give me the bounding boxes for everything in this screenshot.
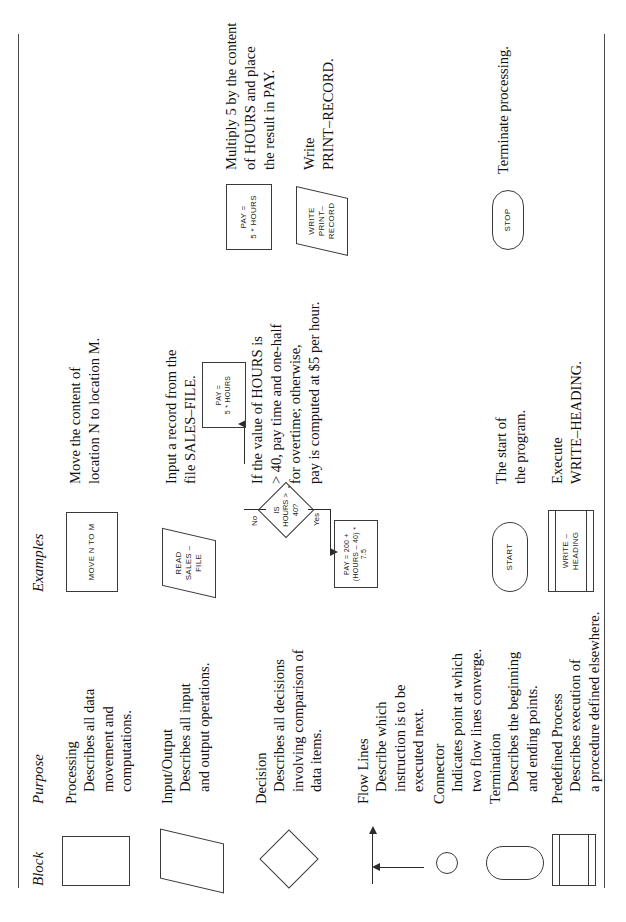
example-label-pay: PAY = 5 * HOURS [227, 185, 271, 249]
term-flow-lines: Flow Lines [354, 599, 372, 804]
example-termination-stop: STOP [492, 190, 524, 250]
term-processing: Processing [62, 599, 80, 804]
purpose-connector: Connector Indicates point at which two f… [430, 599, 485, 804]
caption-predefined-process: Execute WRITE–HEADING. [548, 274, 586, 484]
decision-yes-box-label: PAY = 200 + (HOURS – 40) * 7.5 [335, 521, 377, 587]
example-label-write-heading: WRITE – HEADING [549, 511, 593, 591]
shape-flow-lines [364, 826, 420, 886]
decision-diamond-label: IS HOURS > 40? [270, 480, 302, 540]
example-io: READ SALES – FILE [162, 534, 216, 592]
decision-no-box-label: PAY = 5 * HOURS [203, 363, 245, 427]
rotated-page-wrapper: Block Purpose Examples Processing Descri… [0, 0, 626, 922]
desc-flow-lines: Describe which instruction is to be exec… [372, 599, 427, 804]
purpose-predefined-process: Predefined Process Describes execution o… [548, 574, 603, 804]
caption-io: Input a record from the file SALES–FILE. [162, 274, 200, 484]
bottom-rule [604, 34, 605, 888]
shape-io-parallelogram [160, 836, 224, 886]
purpose-termination: Termination Describes the beginning and … [486, 599, 541, 804]
desc-termination: Describes the beginning and ending point… [504, 599, 541, 804]
caption-write-print-record: Write PRINT–RECORD. [300, 0, 338, 170]
example-label-read: READ SALES – FILE [163, 535, 215, 591]
caption-termination-stop: Terminate processing. [494, 4, 513, 174]
example-label-move: MOVE N TO M [67, 513, 117, 591]
term-termination: Termination [486, 599, 504, 804]
top-rule [18, 34, 19, 888]
example-predefined-process: WRITE – HEADING [548, 510, 594, 592]
shape-predefined-process [552, 834, 596, 886]
example-termination-start: START [492, 522, 528, 592]
decision-tag-yes: Yes [312, 513, 321, 526]
column-header-purpose: Purpose [30, 754, 47, 804]
scanned-page: Block Purpose Examples Processing Descri… [0, 0, 626, 922]
desc-connector: Indicates point at which two flow lines … [448, 599, 485, 804]
column-header-examples: Examples [30, 534, 47, 592]
caption-pay-box: Multiply 5 by the content of HOURS and p… [222, 0, 279, 170]
caption-termination-start: The start of the program. [492, 284, 530, 484]
desc-processing: Describes all data movement and computat… [80, 599, 135, 804]
caption-decision: If the value of HOURS is > 40, pay time … [248, 234, 323, 484]
term-predefined-process: Predefined Process [548, 574, 566, 804]
example-processing: MOVE N TO M [66, 512, 118, 592]
column-header-block: Block [30, 852, 47, 886]
desc-io: Describes all input and output operation… [176, 599, 213, 804]
example-label-write-print-record: WRITE PRINT– RECORD [297, 193, 347, 249]
purpose-flow-lines: Flow Lines Describe which instruction is… [354, 599, 428, 804]
purpose-decision: Decision Describes all decisions involvi… [252, 599, 326, 804]
shape-decision-diamond [258, 838, 310, 886]
shape-connector-circle [436, 852, 458, 886]
caption-processing: Move the content of location N to locati… [66, 274, 104, 484]
example-pay-box: PAY = 5 * HOURS [226, 184, 272, 250]
example-label-start: START [493, 523, 527, 591]
purpose-io: Input/Output Describes all input and out… [158, 599, 213, 804]
purpose-processing: Processing Describes all data movement a… [62, 599, 136, 804]
decision-tag-no: No [250, 516, 259, 526]
shape-processing-rectangle [62, 836, 130, 886]
example-write-print-record: WRITE PRINT– RECORD [296, 192, 348, 250]
desc-predefined-process: Describes execution of a procedure defin… [566, 574, 603, 804]
desc-decision: Describes all decisions involving compar… [270, 599, 325, 804]
shape-termination-stadium [486, 846, 544, 886]
example-label-stop: STOP [493, 191, 523, 249]
term-io: Input/Output [158, 599, 176, 804]
term-connector: Connector [430, 599, 448, 804]
term-decision: Decision [252, 599, 270, 804]
